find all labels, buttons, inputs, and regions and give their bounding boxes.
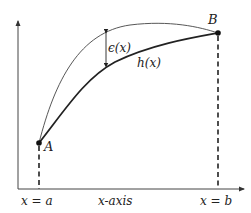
- function-gap-diagram: A B ϵ(x) h(x) x = a x-axis x = b: [0, 0, 251, 213]
- diagram-canvas: A B ϵ(x) h(x) x = a x-axis x = b: [0, 0, 251, 213]
- point-b-label: B: [207, 12, 218, 27]
- x-eq-a-label: x = a: [21, 194, 53, 208]
- point-a-label: A: [43, 139, 53, 154]
- h-curve-label: h(x): [137, 56, 161, 70]
- point-a-dot: [36, 140, 42, 146]
- x-axis-label: x-axis: [98, 194, 133, 208]
- point-b-dot: [215, 30, 221, 36]
- epsilon-label: ϵ(x): [108, 41, 131, 55]
- x-eq-b-label: x = b: [200, 194, 232, 208]
